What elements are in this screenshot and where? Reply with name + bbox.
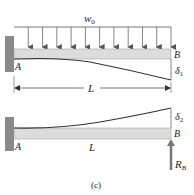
beam-bottom (14, 128, 171, 139)
bottom-diagram: A B δ2 L RB (5, 108, 187, 172)
fixed-wall-top (5, 36, 14, 72)
span-label-top: L (87, 82, 94, 94)
top-diagram: w0 A B δ1 L (5, 12, 184, 94)
end-b-label-bottom: B (174, 128, 180, 139)
fixed-wall-bottom (5, 117, 14, 151)
end-a-label-bottom: A (14, 141, 22, 152)
cantilever-beam-diagram: w0 A B δ1 L A B δ2 L RB (c) (0, 0, 194, 195)
figure-caption: (c) (91, 180, 101, 190)
load-arrows (28, 27, 171, 47)
deflection-curve-1 (14, 58, 171, 80)
reaction-label: RB (174, 158, 187, 172)
end-b-label-top: B (174, 49, 180, 60)
span-label-bottom: L (88, 141, 95, 153)
reaction-arrow-head (167, 139, 175, 146)
deflection-2-label: δ2 (175, 111, 184, 124)
deflection-1-label: δ1 (175, 65, 184, 78)
end-a-label-top: A (14, 61, 22, 72)
load-label: w0 (84, 12, 95, 26)
beam-top (14, 49, 171, 59)
deflection-curve-2 (14, 108, 171, 128)
